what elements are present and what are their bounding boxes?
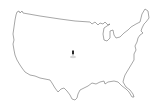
map-canvas [0,0,159,107]
us-outline-map [0,0,159,107]
us-border-outline [13,9,149,100]
location-marker-icon [70,50,76,58]
